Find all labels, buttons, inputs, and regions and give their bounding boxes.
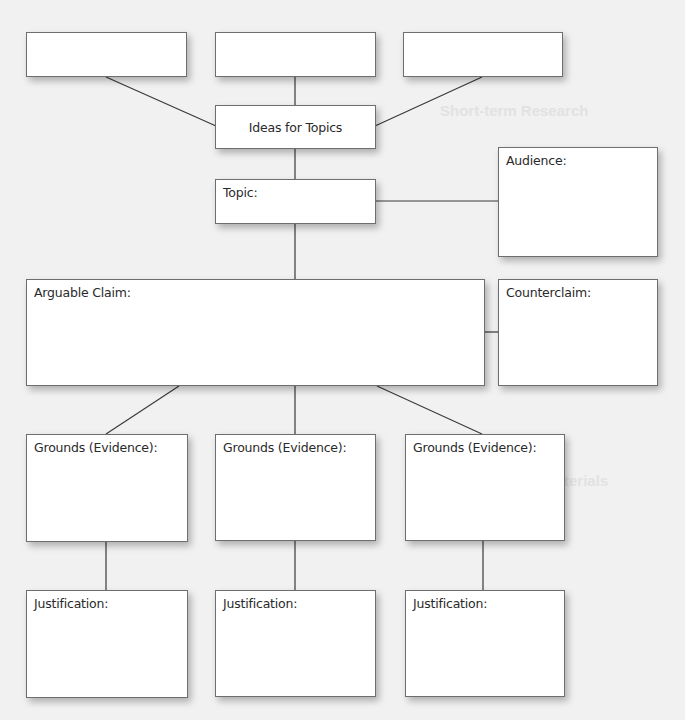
ideas-for-topics-box: Ideas for Topics bbox=[215, 105, 376, 149]
justification-label-3: Justification: bbox=[413, 596, 487, 611]
connector-idea3-to-ideas bbox=[375, 77, 482, 126]
justification-box-3[interactable]: Justification: bbox=[405, 590, 565, 697]
justification-box-1[interactable]: Justification: bbox=[26, 590, 188, 698]
grounds-box-3[interactable]: Grounds (Evidence): bbox=[405, 434, 565, 541]
counterclaim-box[interactable]: Counterclaim: bbox=[498, 279, 658, 386]
arguable-claim-label: Arguable Claim: bbox=[34, 285, 131, 300]
grounds-box-1[interactable]: Grounds (Evidence): bbox=[26, 434, 188, 542]
idea-box-3[interactable] bbox=[403, 32, 563, 77]
arguable-claim-box[interactable]: Arguable Claim: bbox=[26, 279, 485, 386]
idea-box-1[interactable] bbox=[26, 32, 187, 77]
connector-claim-to-grounds3 bbox=[377, 386, 482, 434]
grounds-label-3: Grounds (Evidence): bbox=[413, 440, 537, 455]
grounds-label-2: Grounds (Evidence): bbox=[223, 440, 347, 455]
justification-label-1: Justification: bbox=[34, 596, 108, 611]
connector-idea1-to-ideas bbox=[106, 77, 216, 126]
audience-box[interactable]: Audience: bbox=[498, 147, 658, 257]
connector-claim-to-grounds1 bbox=[106, 386, 179, 434]
topic-box[interactable]: Topic: bbox=[215, 179, 376, 224]
idea-box-2[interactable] bbox=[215, 32, 376, 77]
grounds-box-2[interactable]: Grounds (Evidence): bbox=[215, 434, 376, 541]
justification-box-2[interactable]: Justification: bbox=[215, 590, 376, 697]
grounds-label-1: Grounds (Evidence): bbox=[34, 440, 158, 455]
counterclaim-label: Counterclaim: bbox=[506, 285, 591, 300]
ideas-for-topics-label: Ideas for Topics bbox=[249, 120, 342, 135]
justification-label-2: Justification: bbox=[223, 596, 297, 611]
audience-label: Audience: bbox=[506, 153, 566, 168]
topic-label: Topic: bbox=[223, 185, 257, 200]
